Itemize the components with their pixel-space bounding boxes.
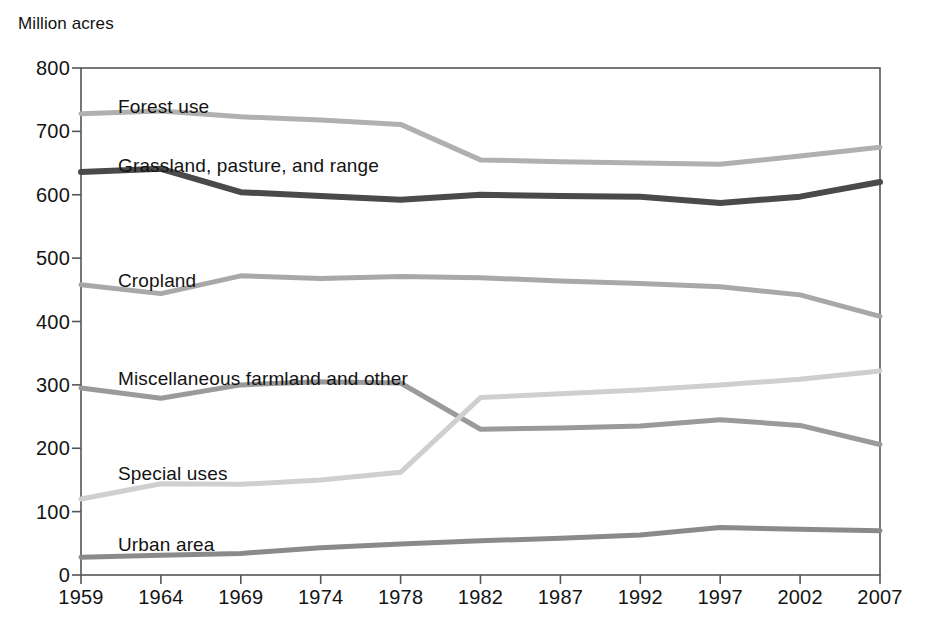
series-lines [81, 111, 880, 557]
series-line-2 [81, 276, 880, 317]
series-label-2: Cropland [118, 270, 196, 292]
series-label-4: Special uses [118, 463, 228, 485]
chart-root: Million acres 0100200300400500600700800 … [0, 0, 928, 639]
tick-marks [72, 68, 880, 584]
series-label-3: Miscellaneous farmland and other [118, 368, 408, 390]
plot-frame [81, 68, 880, 575]
series-label-1: Grassland, pasture, and range [118, 155, 379, 177]
series-line-3 [81, 382, 880, 445]
plot-border [81, 68, 880, 575]
series-label-5: Urban area [118, 534, 215, 556]
series-label-0: Forest use [118, 96, 209, 118]
